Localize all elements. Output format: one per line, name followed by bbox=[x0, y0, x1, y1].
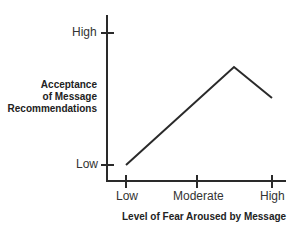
y-axis-label-line-1: Acceptance bbox=[8, 79, 97, 91]
x-tick-label-moderate: Moderate bbox=[173, 189, 224, 203]
acceptance-line bbox=[126, 67, 272, 165]
y-tick-label-high: High bbox=[72, 25, 97, 39]
y-axis-label: Acceptance of Message Recommendations bbox=[8, 79, 97, 115]
x-tick-label-low: Low bbox=[116, 189, 138, 203]
y-axis-label-line-3: Recommendations bbox=[8, 103, 97, 115]
x-axis-label: Level of Fear Aroused by Message bbox=[122, 211, 286, 222]
y-tick-label-low: Low bbox=[76, 157, 98, 171]
y-axis-label-line-2: of Message bbox=[8, 91, 97, 103]
x-tick-label-high: High bbox=[260, 189, 285, 203]
